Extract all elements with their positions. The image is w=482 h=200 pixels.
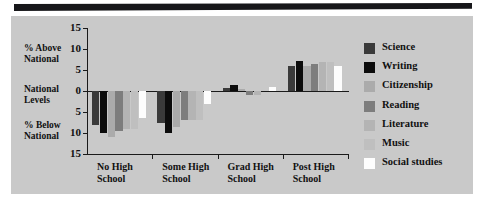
bar xyxy=(100,91,107,133)
decorative-top-rule xyxy=(14,3,472,11)
y-axis-tick xyxy=(83,49,87,50)
y-axis-tick xyxy=(83,154,87,155)
legend-label: Citizenship xyxy=(382,79,433,90)
y-axis-tick xyxy=(83,91,87,92)
bar xyxy=(123,91,130,129)
x-axis-category-label: Some High School xyxy=(162,161,209,184)
bar xyxy=(246,91,253,95)
legend-label: Social studies xyxy=(382,156,442,167)
legend-swatch-icon xyxy=(364,43,375,54)
legend-swatch-icon xyxy=(364,81,375,92)
bar xyxy=(223,88,230,91)
legend-row: Music xyxy=(364,136,476,155)
bar xyxy=(327,62,334,91)
x-axis-tick xyxy=(283,155,284,159)
legend-row: Citizenship xyxy=(364,78,476,97)
y-axis-tick xyxy=(83,28,87,29)
y-axis-tick-label: 15 xyxy=(55,22,81,33)
legend-swatch-icon xyxy=(364,158,375,169)
bar xyxy=(254,91,261,95)
bar xyxy=(288,66,295,91)
annotation-below-national: % Below National xyxy=(24,120,61,142)
legend-row: Science xyxy=(364,40,476,59)
bar xyxy=(269,87,276,91)
y-axis-tick xyxy=(83,70,87,71)
legend-row: Social studies xyxy=(364,155,476,174)
x-axis-tick xyxy=(348,155,349,159)
legend-row: Reading xyxy=(364,98,476,117)
legend-swatch-icon xyxy=(364,139,375,150)
bar xyxy=(303,66,310,91)
bar xyxy=(131,91,138,129)
x-axis-tick xyxy=(218,155,219,159)
x-axis-tick xyxy=(152,155,153,159)
x-axis-category-label: No High School xyxy=(97,161,133,184)
legend-label: Literature xyxy=(382,118,428,129)
bar xyxy=(334,66,341,91)
x-axis-category-label: Post High School xyxy=(293,161,335,184)
bar xyxy=(157,91,164,123)
bar xyxy=(92,91,99,125)
legend-swatch-icon xyxy=(364,120,375,131)
legend-row: Writing xyxy=(364,59,476,78)
y-axis-tick-label: 5 xyxy=(55,64,81,75)
bar xyxy=(165,91,172,133)
chart-figure: 15105051015 % Above National National Le… xyxy=(0,0,482,200)
chart-legend: ScienceWritingCitizenshipReadingLiteratu… xyxy=(364,40,476,174)
annotation-national-levels: National Levels xyxy=(24,84,59,106)
bar xyxy=(115,91,122,131)
bar xyxy=(181,91,188,120)
bar xyxy=(173,91,180,127)
bar xyxy=(108,91,115,137)
y-axis-tick xyxy=(83,133,87,134)
y-axis-tick xyxy=(83,112,87,113)
legend-row: Literature xyxy=(364,117,476,136)
legend-label: Reading xyxy=(382,99,419,110)
legend-swatch-icon xyxy=(364,101,375,112)
y-axis-tick-label: 15 xyxy=(55,148,81,159)
bar xyxy=(139,91,146,118)
bar xyxy=(204,91,211,104)
legend-label: Writing xyxy=(382,60,417,71)
bar xyxy=(238,89,245,91)
legend-label: Science xyxy=(382,41,415,52)
bar xyxy=(319,62,326,91)
bar xyxy=(311,64,318,91)
annotation-above-national: % Above National xyxy=(24,43,61,65)
bar xyxy=(230,85,237,91)
x-axis-category-label: Grad High School xyxy=(228,161,274,184)
bar xyxy=(296,61,303,91)
y-axis-tick-label: 5 xyxy=(55,106,81,117)
bar xyxy=(196,91,203,120)
legend-swatch-icon xyxy=(364,62,375,73)
legend-label: Music xyxy=(382,137,409,148)
bar xyxy=(188,91,195,120)
